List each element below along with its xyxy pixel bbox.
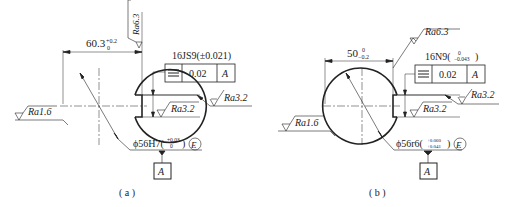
drawing-canvas: 60.3 +0.2 0 Ra6.3 16JS9(±0.021) 0.02 A R… [0, 0, 506, 207]
fcf-value-b: 0.02 [439, 69, 457, 80]
bore-dim-a-lower: 0 [170, 143, 173, 149]
fcf-value-a: 0.02 [189, 68, 207, 79]
roughness-right-outer-a: Ra3.2 [223, 92, 248, 103]
roughness-right-inner-b: Ra3.2 [422, 103, 447, 114]
roughness-right-inner-a: Ra3.2 [170, 103, 195, 114]
keyway-tolerance-b-close: ) [475, 51, 478, 63]
bore-dim-a: ϕ56H7( [133, 138, 164, 150]
bore-dim-b-lower: +0.041 [427, 144, 442, 149]
width-dim-b-upper: 0 [362, 47, 365, 53]
figure-b [278, 29, 499, 179]
bore-dim-b-upper: +0.060 [427, 138, 442, 143]
width-dim-a-upper: +0.2 [106, 38, 117, 44]
roughness-left-b: Ra1.6 [294, 117, 319, 128]
roughness-left-a: Ra1.6 [27, 106, 52, 117]
width-dim-b-lower: −0.2 [358, 54, 369, 60]
bore-dim-a-upper: +0.03 [167, 137, 180, 143]
width-dim-a-lower: 0 [107, 45, 110, 51]
datum-label-a: A [157, 166, 165, 177]
roughness-right-outer-b: Ra3.2 [470, 89, 495, 100]
keyway-tolerance-a: 16JS9(±0.021) [172, 50, 231, 62]
width-dim-b: 50 [347, 47, 359, 59]
roughness-top-a: Ra6.3 [131, 13, 141, 36]
fcf-datum-a: A [221, 68, 229, 79]
keyway-tolerance-b: 16N9( [425, 51, 451, 63]
bore-dim-b: ϕ56r6( [396, 138, 424, 150]
bore-dim-a-close: ) [182, 138, 185, 150]
caption-a: ( a ) [119, 187, 135, 199]
bore-dim-b-close: ) [447, 138, 450, 150]
keyway-tolerance-b-lower: −0.043 [454, 56, 470, 62]
envelope-symbol-a: E [190, 140, 197, 150]
roughness-top-b: Ra6.3 [424, 26, 449, 37]
caption-b: ( b ) [369, 187, 386, 199]
datum-label-b: A [423, 166, 431, 177]
envelope-symbol-b: E [455, 140, 462, 150]
width-dim-a: 60.3 [86, 37, 106, 49]
fcf-datum-b: A [471, 69, 479, 80]
